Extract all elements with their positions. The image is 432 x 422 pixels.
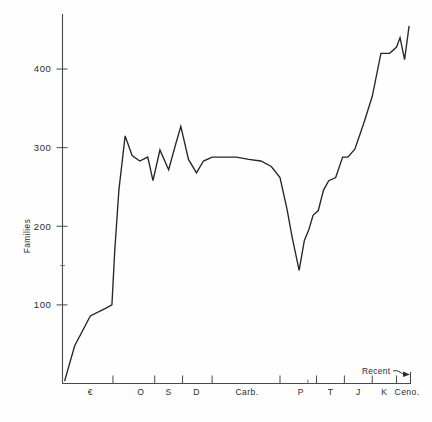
recent-annotation-label: Recent [362, 366, 391, 376]
x-period-label: Carb. [235, 387, 258, 397]
y-tick-label-group: 100200300400 [34, 63, 52, 310]
chart-figure: 100200300400 €OSDCarb.PTJKCeno. Families… [0, 0, 432, 422]
y-tick-label: 100 [34, 299, 52, 310]
x-period-label: € [88, 387, 93, 397]
x-period-label: D [193, 387, 200, 397]
recent-annotation: Recent [362, 366, 410, 377]
x-period-label: P [298, 387, 304, 397]
y-tick-label: 200 [34, 221, 52, 232]
x-tick-label-group: €OSDCarb.PTJKCeno. [88, 387, 420, 397]
diversity-line-chart: 100200300400 €OSDCarb.PTJKCeno. Families… [0, 0, 432, 422]
x-period-label: Ceno. [395, 387, 420, 397]
x-period-label: T [328, 387, 334, 397]
y-axis-title: Families [23, 219, 32, 253]
recent-arrow-curve [393, 371, 404, 375]
x-period-label: J [356, 387, 361, 397]
x-period-label: O [137, 387, 144, 397]
diversity-curve [65, 26, 410, 381]
x-tick-group [63, 376, 411, 384]
y-tick-label: 300 [34, 142, 52, 153]
x-period-label: K [381, 387, 387, 397]
recent-arrow-head [403, 372, 410, 377]
y-tick-label: 400 [34, 63, 52, 74]
x-period-label: S [166, 387, 172, 397]
